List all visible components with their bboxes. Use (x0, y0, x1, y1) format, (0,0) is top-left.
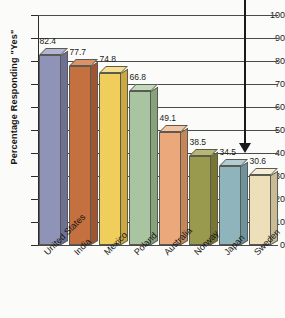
bar (129, 91, 151, 245)
bar-front-face (39, 55, 61, 245)
bar-value-label: 74.8 (100, 55, 117, 64)
downward-arrow-head (239, 143, 251, 153)
y-tick-mark (31, 107, 38, 108)
bar (39, 55, 61, 245)
gridline (38, 38, 278, 39)
bar-front-face (129, 91, 151, 245)
y-tick-mark (31, 245, 38, 246)
bar-side-face (91, 62, 98, 245)
bar-value-label: 82.4 (40, 37, 57, 46)
bar-side-face (121, 69, 128, 245)
chart-figure: Percentage Responding "Yes" 010203040506… (0, 0, 285, 318)
plot-area: 82.477.774.866.849.138.534.530.6 (38, 15, 278, 245)
downward-arrow-shaft (244, 0, 246, 148)
y-tick-mark (31, 222, 38, 223)
bar-value-label: 66.8 (130, 73, 147, 82)
y-tick-mark (31, 61, 38, 62)
bar-front-face (159, 132, 181, 245)
bar-front-face (99, 73, 121, 245)
bar-value-label: 38.5 (190, 138, 207, 147)
y-tick-mark (31, 199, 38, 200)
bar-value-label: 77.7 (70, 48, 87, 57)
y-tick-mark (31, 38, 38, 39)
bar-side-face (61, 51, 68, 245)
y-tick-mark (31, 15, 38, 16)
y-tick-mark (31, 84, 38, 85)
bar (99, 73, 121, 245)
bar (159, 132, 181, 245)
bar-side-face (151, 87, 158, 245)
bar-value-label: 34.5 (220, 148, 237, 157)
y-tick-mark (31, 176, 38, 177)
bar-value-label: 49.1 (160, 114, 177, 123)
gridline (38, 245, 278, 246)
y-axis-title: Percentage Responding "Yes" (9, 27, 19, 167)
bar-side-face (241, 161, 248, 245)
y-tick-mark (31, 153, 38, 154)
gridline (38, 15, 278, 16)
y-tick-mark (31, 130, 38, 131)
bar-value-label: 30.6 (250, 157, 267, 166)
